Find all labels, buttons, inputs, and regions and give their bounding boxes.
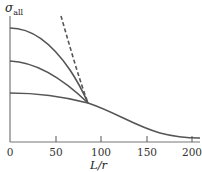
x-axis-label: L/r [90, 158, 107, 172]
y-label-subscript: all [13, 8, 23, 17]
y-label-main: σ [5, 1, 13, 15]
curve-lower [10, 93, 200, 138]
x-tick-label-50: 50 [49, 146, 62, 158]
y-axis-label: σall [5, 1, 23, 17]
x-tick-label-0: 0 [7, 146, 14, 158]
x-tick-label-150: 150 [137, 146, 157, 158]
x-tick-label-200: 200 [182, 146, 202, 158]
x-tick-label-100: 100 [91, 146, 111, 158]
